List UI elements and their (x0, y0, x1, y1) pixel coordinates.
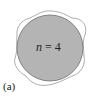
mode-number-label: n = 4 (36, 40, 61, 55)
panel-label: (a) (3, 80, 15, 92)
